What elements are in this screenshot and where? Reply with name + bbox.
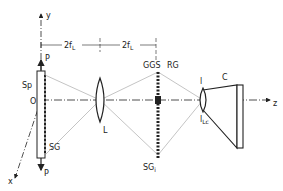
x-axis: x (8, 100, 41, 186)
svg-text:x: x (8, 177, 13, 186)
load-arrow-top: P (41, 54, 50, 71)
camera: C l lLc (200, 73, 243, 148)
svg-text:y: y (46, 11, 51, 20)
svg-text:L: L (103, 126, 108, 135)
optical-setup-diagram: y x z 2fL 2fL P P Sp O SG (0, 0, 283, 191)
svg-text:RG: RG (167, 61, 179, 70)
dimension-2fl-left: 2fL (41, 38, 100, 52)
image-grating: GGS RG SGi (143, 61, 179, 173)
svg-text:P: P (44, 169, 49, 178)
diagram-canvas: y x z 2fL 2fL P P Sp O SG (0, 0, 283, 191)
specimen (37, 71, 45, 158)
svg-text:C: C (222, 73, 228, 82)
label-origin: O (30, 97, 36, 106)
label-sp: Sp (22, 81, 32, 90)
lens-l: L (96, 78, 108, 135)
dimension-2fl-right: 2fL (100, 38, 156, 60)
svg-text:z: z (273, 99, 277, 108)
svg-text:l: l (200, 77, 202, 86)
load-arrow-bottom: P (41, 158, 49, 178)
svg-text:GGS: GGS (143, 61, 160, 70)
svg-text:lLc: lLc (200, 115, 209, 125)
svg-text:P: P (45, 54, 50, 63)
label-sg: SG (49, 143, 60, 152)
svg-text:SGi: SGi (143, 163, 156, 173)
